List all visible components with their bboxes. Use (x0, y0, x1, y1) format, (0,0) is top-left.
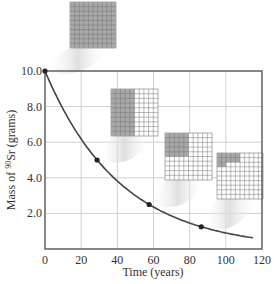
y-axis-label-isotope: 90 (4, 161, 13, 169)
data-point (147, 202, 152, 207)
x-tick-label: 0 (42, 253, 48, 267)
y-axis-label-suffix: (grams) (4, 110, 18, 150)
grid-inset (111, 89, 158, 136)
y-tick-label: 6.0 (27, 135, 42, 149)
data-point (42, 68, 47, 73)
y-axis-label: Mass of 90Sr (grams) (4, 110, 18, 210)
y-axis-label-prefix: Mass of (4, 169, 18, 210)
x-tick-label: 120 (253, 253, 271, 267)
data-point (94, 157, 99, 162)
y-tick-label: 4.0 (27, 171, 42, 185)
x-tick-label: 100 (217, 253, 235, 267)
swoosh (97, 136, 152, 163)
x-tick-label: 20 (75, 253, 87, 267)
grid-inset (165, 133, 212, 180)
x-axis-label: Time (years) (122, 265, 183, 279)
swoosh (201, 199, 258, 230)
y-tick-label: 2.0 (27, 206, 42, 220)
swoosh (149, 180, 206, 207)
swoosh (45, 48, 111, 74)
x-tick-label: 80 (184, 253, 196, 267)
grid-insets (70, 2, 263, 199)
y-tick-label: 8.0 (27, 100, 42, 114)
decay-chart: 0204060801001202.04.06.08.010.0 Time (ye… (0, 0, 276, 284)
y-axis-label-element: Sr (4, 150, 18, 161)
data-point (199, 224, 204, 229)
y-tick-label: 10.0 (21, 64, 42, 78)
grid-inset (70, 2, 116, 48)
grid-inset (217, 153, 263, 199)
